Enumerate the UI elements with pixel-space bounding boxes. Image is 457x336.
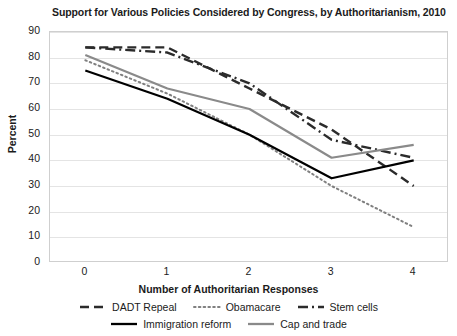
- legend-label: Stem cells: [330, 301, 378, 313]
- chart-figure: Support for Various Policies Considered …: [0, 0, 457, 336]
- legend-label: Cap and trade: [280, 318, 347, 330]
- legend-entry[interactable]: Obamacare: [193, 301, 281, 313]
- x-tick-label: 1: [151, 265, 181, 277]
- chart-legend: DADT RepealObamacareStem cells Immigrati…: [0, 298, 457, 332]
- y-tick-label: 0: [6, 255, 40, 267]
- x-axis-label: Number of Authoritarian Responses: [0, 283, 457, 295]
- series-line: [85, 47, 413, 157]
- legend-entry[interactable]: Stem cells: [297, 301, 378, 313]
- series-line: [85, 60, 413, 227]
- y-tick-label: 90: [6, 24, 40, 36]
- y-tick-label: 30: [6, 178, 40, 190]
- legend-entry[interactable]: Immigration reform: [110, 318, 231, 330]
- y-tick-label: 60: [6, 101, 40, 113]
- y-tick-label: 70: [6, 75, 40, 87]
- legend-label: Immigration reform: [143, 318, 231, 330]
- legend-swatch-dashed: [79, 302, 107, 312]
- series-lines: [50, 32, 449, 263]
- legend-swatch-dashdot: [297, 302, 325, 312]
- legend-swatch-solid: [247, 319, 275, 329]
- legend-row-2: Immigration reformCap and trade: [0, 315, 457, 332]
- legend-row-1: DADT RepealObamacareStem cells: [0, 298, 457, 315]
- y-tick-label: 40: [6, 152, 40, 164]
- y-tick-label: 80: [6, 50, 40, 62]
- x-tick-label: 0: [69, 265, 99, 277]
- plot-area: [49, 31, 448, 262]
- legend-entry[interactable]: DADT Repeal: [79, 301, 177, 313]
- series-line: [85, 55, 413, 158]
- legend-entry[interactable]: Cap and trade: [247, 318, 347, 330]
- chart-title: Support for Various Policies Considered …: [52, 6, 452, 18]
- legend-swatch-solid: [110, 319, 138, 329]
- y-tick-label: 10: [6, 229, 40, 241]
- legend-swatch-dotted: [193, 302, 221, 312]
- series-line: [85, 47, 413, 186]
- y-tick-label: 50: [6, 127, 40, 139]
- y-tick-label: 20: [6, 204, 40, 216]
- x-tick-label: 4: [398, 265, 428, 277]
- x-tick-label: 2: [234, 265, 264, 277]
- legend-label: Obamacare: [226, 301, 281, 313]
- legend-label: DADT Repeal: [112, 301, 177, 313]
- x-tick-label: 3: [316, 265, 346, 277]
- series-line: [85, 71, 413, 179]
